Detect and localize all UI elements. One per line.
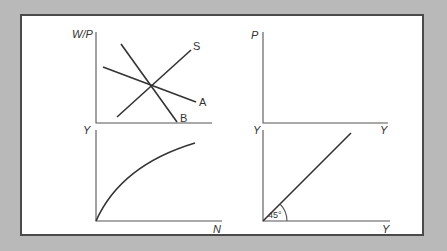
y-axis-label-bottom-right-x: Y — [382, 223, 390, 235]
y-axis-label-bottom-right: Y — [253, 124, 261, 136]
labor-market-panel: W/P S A B — [72, 28, 212, 124]
label-s: S — [193, 40, 200, 52]
forty-five-axes — [263, 130, 390, 221]
price-output-panel: P Y — [251, 29, 388, 136]
diagram-canvas: W/P S A B P Y Y N Y Y 45° — [0, 0, 447, 251]
n-axis-label: N — [213, 223, 221, 235]
production-curve — [96, 143, 195, 221]
forty-five-line — [263, 133, 351, 221]
production-function-panel: Y N — [83, 124, 222, 235]
production-axes — [96, 130, 222, 221]
y-axis-label-top-right: Y — [380, 124, 388, 136]
supply-line-s — [117, 50, 191, 117]
angle-label: 45° — [268, 210, 282, 220]
y-axis-label-bottom-left: Y — [83, 124, 91, 136]
forty-five-degree-panel: Y Y 45° — [253, 124, 390, 235]
p-axis-label: P — [251, 29, 259, 41]
label-b: B — [180, 112, 187, 124]
price-output-axes — [263, 32, 388, 123]
line-b — [121, 44, 177, 122]
label-a: A — [199, 96, 207, 108]
wp-axis-label: W/P — [72, 28, 93, 40]
